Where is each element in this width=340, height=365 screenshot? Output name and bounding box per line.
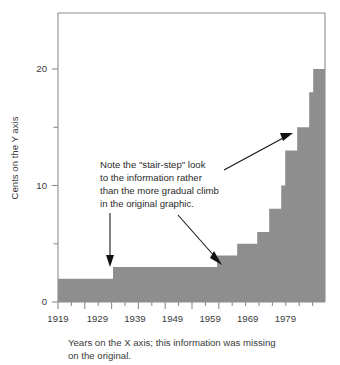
- y-axis-title: Cents on the Y axis: [9, 116, 20, 199]
- x-tick-label-1929: 1929: [87, 313, 108, 324]
- x-tick-label-1969: 1969: [237, 313, 258, 324]
- y-axis-ticks: [52, 69, 58, 302]
- x-tick-label-1939: 1939: [124, 313, 145, 324]
- x-tick-label-1919: 1919: [47, 313, 68, 324]
- x-axis-caption: Years on the X axis; this information wa…: [68, 337, 276, 361]
- annotation-note-line-3: than the more gradual climb: [100, 185, 219, 196]
- y-tick-label-0: 0: [42, 296, 47, 307]
- x-axis-caption-line-1: Years on the X axis; this information wa…: [68, 337, 276, 348]
- x-tick-label-1959: 1959: [199, 313, 220, 324]
- annotation-note-line-4: in the original graphic.: [100, 198, 194, 209]
- annotation-note-line-2: to the information rather: [100, 172, 203, 183]
- y-tick-label-20: 20: [36, 63, 47, 74]
- chart-figure: 0 10 20 Cents on the Y axis: [0, 0, 340, 365]
- y-tick-label-10: 10: [36, 180, 47, 191]
- x-axis-ticks: [58, 302, 313, 309]
- x-axis-caption-line-2: on the original.: [68, 350, 131, 361]
- x-tick-label-1979: 1979: [275, 313, 296, 324]
- x-tick-label-1949: 1949: [162, 313, 183, 324]
- annotation-note-line-1: Note the "stair-step" look: [100, 159, 206, 170]
- step-area-chart: 0 10 20 Cents on the Y axis: [0, 0, 340, 365]
